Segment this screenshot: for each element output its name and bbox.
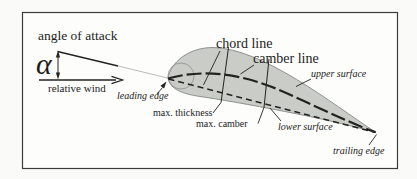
label-max-camber: max. camber — [196, 118, 248, 129]
label-alpha: α — [36, 47, 53, 80]
label-camber-line: camber line — [253, 51, 319, 66]
label-lower-surface: lower surface — [278, 121, 333, 132]
label-relative-wind: relative wind — [48, 82, 106, 94]
label-upper-surface: upper surface — [311, 68, 367, 79]
airfoil-diagram: angle of attack α relative wind chord li… — [0, 0, 417, 179]
label-chord-line: chord line — [216, 36, 272, 51]
label-trailing-edge: trailing edge — [333, 145, 385, 156]
label-leading-edge: leading edge — [117, 90, 169, 101]
label-angle-of-attack: angle of attack — [38, 28, 118, 43]
figure-canvas: angle of attack α relative wind chord li… — [0, 0, 417, 179]
label-max-thickness: max. thickness — [153, 107, 213, 118]
